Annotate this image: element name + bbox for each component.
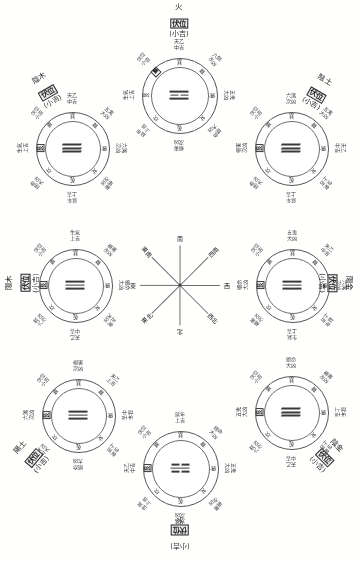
wheel-title-yang-wood: 陽木伏位(小吉) <box>5 273 40 292</box>
outer-annotation-天乙: 天乙中吉 <box>319 243 334 258</box>
ring-label-艮: 艮 <box>40 281 48 289</box>
ring-label-艮: 艮 <box>144 464 152 472</box>
outer-annotation-grade: 中吉 <box>70 328 80 334</box>
outer-annotation-name: 天乙 <box>70 334 80 340</box>
outer-annotation-生氣: 生氣上吉 <box>123 90 134 100</box>
outer-annotation-grade: 上吉 <box>129 90 135 100</box>
wheel-element-label: 水 <box>170 516 189 525</box>
trigram-line <box>69 411 88 413</box>
outer-annotation-grade: 中吉 <box>130 463 136 473</box>
trigram-line <box>66 281 85 283</box>
ring-label-巽: 巽 <box>289 114 294 119</box>
ring-label-巽: 巽 <box>289 378 294 383</box>
outer-annotation-grade: 上吉 <box>70 236 80 242</box>
outer-annotation-禍害: 禍害次凶 <box>73 360 83 371</box>
trigram-bar-solid <box>66 284 85 286</box>
trigram-line <box>63 151 82 153</box>
outer-annotation-延年: 延年中吉 <box>121 410 132 420</box>
wheel-palace-label: 伏位 <box>20 274 31 292</box>
wheel-title-yin-wood: 陰木伏位(小吉) <box>29 70 63 110</box>
wheel-palace-wrap: 伏位 <box>13 273 31 292</box>
trigram-line <box>171 464 189 466</box>
outer-annotation-天乙: 天乙上吉 <box>105 373 120 388</box>
wheel-palace-label: 伏位 <box>327 274 338 292</box>
trigram-bar-solid <box>62 147 82 149</box>
trigram-glyph-fire <box>170 91 189 100</box>
trigram-bar-solid <box>281 151 301 153</box>
ring-label-坤: 坤 <box>209 93 214 98</box>
outer-annotation-絕命: 絕命大凶 <box>30 175 45 190</box>
outer-annotation-grade: 上吉 <box>67 191 77 197</box>
trigram-glyph-water <box>171 464 190 473</box>
outer-annotation-生氣: 生氣上吉 <box>287 328 297 339</box>
ring-label-乾: 乾 <box>178 498 183 503</box>
compass-direction-北: 北 <box>177 328 183 337</box>
ring-label-巽: 巽 <box>73 251 78 256</box>
outer-annotation-grade: 大凶 <box>118 280 124 290</box>
outer-annotation-grade: 大凶 <box>242 407 248 417</box>
ring-label-巽: 巽 <box>178 433 183 438</box>
trigram-glyph-yin-earth <box>282 144 301 153</box>
trigram-bar-broken <box>171 464 179 466</box>
wheel-title-fire: 火伏位(小吉) <box>169 3 188 38</box>
outer-annotation-grade: 大凶 <box>287 236 297 242</box>
trigram-bar-solid <box>281 147 301 149</box>
trigram-line <box>282 411 301 413</box>
outer-annotation-生氣: 生氣上吉 <box>17 143 28 153</box>
ring-label-坤: 坤 <box>320 410 325 415</box>
outer-annotation-生氣: 生氣上吉 <box>70 230 80 241</box>
outer-annotation-延年: 延年上吉 <box>319 312 334 327</box>
trigram-bar-solid <box>69 418 88 420</box>
outer-annotation-name: 絕命 <box>124 280 130 290</box>
ring-label-坤: 坤 <box>320 146 325 151</box>
wheel-element-label: 火 <box>169 3 188 12</box>
outer-annotation-grade: 次凶 <box>115 143 121 153</box>
outer-annotation-grade: 大凶 <box>243 280 249 290</box>
compass-direction-西: 西 <box>224 281 230 290</box>
trigram-line <box>69 418 88 420</box>
trigram-bar-solid <box>283 284 302 286</box>
outer-annotation-name: 延年 <box>127 410 133 420</box>
trigram-bar-solid <box>281 408 301 410</box>
trigram-bar-broken <box>171 471 179 473</box>
outer-annotation-延年: 延年上吉 <box>334 407 345 417</box>
compass-direction-南: 南 <box>177 234 183 243</box>
trigram-line <box>171 467 190 469</box>
outer-annotation-grade: 大凶 <box>73 458 83 464</box>
trigram-line <box>282 147 301 149</box>
outer-annotation-絕命: 絕命大凶 <box>249 175 264 190</box>
outer-annotation-絕命: 絕命大凶 <box>73 458 83 469</box>
compass-ray <box>140 285 180 286</box>
wheel-grade-label: (小吉) <box>319 273 327 292</box>
trigram-line <box>63 147 82 149</box>
ring-label-巽: 巽 <box>177 60 182 65</box>
outer-annotation-name: 延年 <box>286 197 296 203</box>
outer-annotation-grade: 次凶 <box>286 99 296 105</box>
outer-annotation-天乙: 天乙中吉 <box>70 328 80 339</box>
outer-annotation-禍害: 禍害次凶 <box>318 370 333 385</box>
wheel-grade-label: (小吉) <box>31 273 39 292</box>
ring-label-乾: 乾 <box>177 125 182 130</box>
trigram-bar-solid <box>283 281 302 283</box>
outer-annotation-name: 天乙 <box>286 461 296 467</box>
outer-annotation-天乙: 天乙中吉 <box>286 455 296 466</box>
compass-ray <box>180 245 181 285</box>
outer-annotation-五鬼: 五鬼大凶 <box>236 407 247 417</box>
outer-annotation-禍害: 禍害次凶 <box>236 143 247 153</box>
trigram-bar-broken <box>170 94 178 96</box>
trigram-glyph-yin-wood <box>63 144 82 153</box>
trigram-bar-solid <box>281 415 301 417</box>
trigram-bar-solid <box>170 91 189 93</box>
outer-annotation-伏位: 伏位小吉 <box>250 243 265 258</box>
trigram-line <box>282 415 301 417</box>
ring-label-艮: 艮 <box>144 93 149 98</box>
trigram-bar-solid <box>170 98 189 100</box>
ring-label-乾: 乾 <box>73 314 78 319</box>
outer-annotation-五鬼: 五鬼大凶 <box>224 463 235 473</box>
outer-annotation-grade: 次凶 <box>174 139 184 145</box>
ring-label-巽: 巽 <box>76 381 81 386</box>
outer-annotation-延年: 延年上吉 <box>286 191 296 202</box>
outer-annotation-name: 天乙 <box>340 143 346 153</box>
wheel-title-yang-metal: 陽金伏位(小吉) <box>319 273 354 292</box>
trigram-line <box>170 91 189 93</box>
